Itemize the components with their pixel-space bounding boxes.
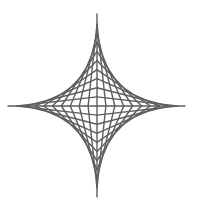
astroid-string-art [0,0,198,215]
